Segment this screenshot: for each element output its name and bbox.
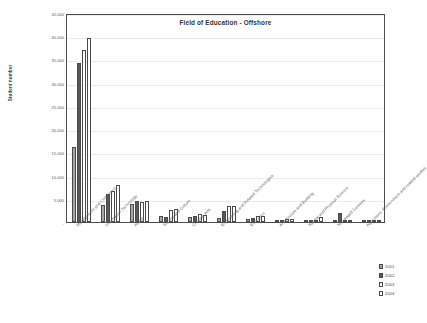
- bar[interactable]: [82, 50, 86, 222]
- bar-group: [212, 15, 241, 222]
- legend-swatch-icon: [379, 264, 383, 268]
- legend-swatch-icon: [379, 282, 383, 286]
- y-axis-tick: 30,000: [38, 81, 64, 86]
- legend-swatch-icon: [379, 273, 383, 277]
- y-axis-tick: 5,000: [38, 197, 64, 202]
- chart-legend: 2001200220032004: [379, 262, 419, 298]
- y-axis-tick: 20,000: [38, 128, 64, 133]
- bar[interactable]: [77, 63, 81, 222]
- y-axis-tick: 35,000: [38, 58, 64, 63]
- legend-item[interactable]: 2001: [379, 262, 419, 271]
- y-axis-tick: 15,000: [38, 151, 64, 156]
- bar[interactable]: [377, 220, 381, 222]
- bar[interactable]: [159, 216, 163, 222]
- y-axis-tick: 25,000: [38, 104, 64, 109]
- legend-label: 2002: [385, 273, 395, 278]
- legend-label: 2003: [385, 282, 395, 287]
- bar-group: [183, 15, 212, 222]
- y-axis-tick-labels: -5,00010,00015,00020,00025,00030,00035,0…: [36, 14, 64, 223]
- bar[interactable]: [188, 217, 192, 222]
- bar[interactable]: [87, 38, 91, 222]
- bar[interactable]: [217, 218, 221, 222]
- bar[interactable]: [130, 204, 134, 222]
- bar[interactable]: [72, 147, 76, 222]
- bar-group: [67, 15, 96, 222]
- legend-label: 2004: [385, 291, 395, 296]
- bar[interactable]: [246, 219, 250, 222]
- y-axis-tick: 40,000: [38, 35, 64, 40]
- bar[interactable]: [348, 220, 352, 222]
- legend-item[interactable]: 2002: [379, 271, 419, 280]
- bar[interactable]: [290, 219, 294, 222]
- y-axis-tick: 10,000: [38, 174, 64, 179]
- y-axis-tick: -: [38, 221, 64, 226]
- x-axis-category-labels: Management and CommerceInformation Techn…: [66, 224, 385, 319]
- bar-group: [154, 15, 183, 222]
- y-axis-title: Student number: [8, 43, 13, 123]
- legend-item[interactable]: 2004: [379, 289, 419, 298]
- bar-group: [125, 15, 154, 222]
- bar-group: [357, 15, 385, 222]
- legend-swatch-icon: [379, 291, 383, 295]
- legend-label: 2001: [385, 264, 395, 269]
- bar[interactable]: [101, 205, 105, 222]
- legend-item[interactable]: 2003: [379, 280, 419, 289]
- y-axis-tick: 45,000: [38, 12, 64, 17]
- bar-group: [270, 15, 299, 222]
- bar[interactable]: [145, 201, 149, 222]
- bar-group: [299, 15, 328, 222]
